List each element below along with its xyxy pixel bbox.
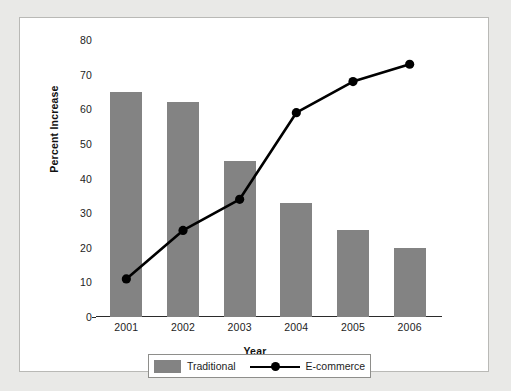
legend-item-ecommerce: E-commerce [250,360,366,372]
line-marker [348,77,357,86]
y-axis-tick-label: 20 [66,242,92,254]
plot-area [98,40,438,317]
y-axis-tick-label: 60 [66,103,92,115]
chart-figure: Percent Increase 01020304050607080 20012… [19,17,489,372]
y-axis-tick-label: 70 [66,69,92,81]
line-series-ecommerce [98,40,438,317]
y-axis-tick-label: 40 [66,173,92,185]
x-axis-tick-label: 2002 [153,321,213,333]
legend-item-traditional: Traditional [154,360,236,373]
y-axis-tick-label: 50 [66,138,92,150]
x-axis-tick-label: 2004 [266,321,326,333]
line-with-dot-icon [250,361,300,372]
x-axis-tick-label: 2001 [96,321,156,333]
x-axis-tick-label: 2005 [323,321,383,333]
line-marker [178,226,187,235]
y-axis-tick-label: 30 [66,207,92,219]
line-markers [122,60,415,284]
x-axis-tick-label: 2003 [210,321,270,333]
line-marker [122,274,131,283]
bar-swatch-icon [154,360,181,373]
x-axis-tick-label: 2006 [380,321,440,333]
y-axis-title: Percent Increase [48,49,60,209]
y-axis-tick-label: 10 [66,276,92,288]
chart-legend: Traditional E-commerce [148,354,371,378]
y-axis-tick-label: 0 [66,311,92,323]
y-axis-tick-group: 01020304050607080 [60,18,92,391]
legend-label-ecommerce: E-commerce [306,360,366,372]
legend-label-traditional: Traditional [187,360,236,372]
y-axis-tick-label: 80 [66,34,92,46]
line-marker [292,108,301,117]
y-axis-tick-mark [92,317,96,318]
line-marker [405,60,414,69]
line-path [126,64,409,279]
line-marker [235,195,244,204]
